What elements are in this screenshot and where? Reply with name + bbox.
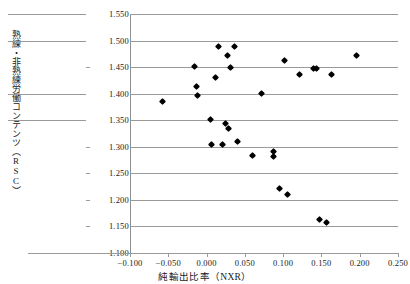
x-axis-line [28,253,398,254]
x-tick-label: 0.200 [350,258,370,268]
y-tick-label: 1.350 [109,115,130,125]
y-tick-mark [8,41,86,42]
x-tick-mark [360,253,361,257]
y-tick-label: 1.500 [109,36,130,46]
data-point [284,190,291,197]
y-tick-label: 1.400 [109,89,130,99]
y-tick-mark [86,226,90,227]
x-tick-label: 0.250 [388,258,408,268]
x-axis-title: 純輸出比率（NXR） [0,269,410,283]
data-point [234,138,241,145]
y-tick-label: 1.450 [109,62,130,72]
gridline [130,200,398,201]
x-tick-label: 0.050 [235,258,255,268]
data-point [224,52,231,59]
data-point [207,116,214,123]
data-point [227,64,234,71]
plot-area: 1.1001.1501.2001.2501.3001.3501.4001.450… [130,14,398,253]
data-point [249,152,256,159]
y-tick-mark [86,67,90,68]
y-tick-label: 1.200 [109,195,130,205]
data-point [159,98,166,105]
data-point [258,90,265,97]
data-point [215,43,222,50]
gridline [130,226,398,227]
y-tick-mark [8,120,86,121]
data-point [212,74,219,81]
x-tick-mark [130,253,131,257]
x-tick-mark [321,253,322,257]
data-point [225,125,232,132]
data-point [276,185,283,192]
gridline [130,147,398,148]
y-tick-label: 1.550 [109,9,130,19]
data-point [296,70,303,77]
y-tick-mark [86,200,90,201]
data-point [316,216,323,223]
data-point [353,52,360,59]
data-point [323,219,330,226]
gridline [130,67,398,68]
y-tick-mark [86,147,90,148]
x-tick-mark [283,253,284,257]
data-point [191,63,198,70]
scatter-chart: 熟練・非熟練労働コンテンツ（RSC） 1.1001.1501.2001.2501… [0,0,410,284]
x-tick-label: −0.100 [117,258,142,268]
gridline [130,173,398,174]
x-tick-mark [207,253,208,257]
gridline [130,41,398,42]
data-point [270,153,277,160]
data-point [193,83,200,90]
y-tick-label: 1.150 [109,221,130,231]
x-tick-label: 0.100 [273,258,293,268]
x-tick-label: 0.150 [311,258,331,268]
gridline [130,14,398,15]
y-axis-title: 熟練・非熟練労働コンテンツ（RSC） [4,30,21,242]
x-tick-label: 0.000 [197,258,217,268]
y-tick-label: 1.300 [109,142,130,152]
data-point [281,57,288,64]
y-tick-mark [8,14,86,15]
y-tick-label: 1.250 [109,168,130,178]
x-tick-mark [398,253,399,257]
y-tick-mark [8,94,86,95]
gridline [130,120,398,121]
x-tick-mark [245,253,246,257]
y-tick-mark [86,173,90,174]
x-tick-label: −0.050 [156,258,181,268]
data-point [231,43,238,50]
data-point [328,70,335,77]
x-tick-mark [168,253,169,257]
